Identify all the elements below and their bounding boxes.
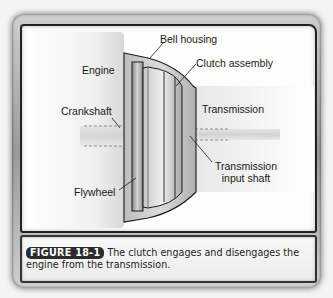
label-transmission-input-shaft: Transmission input shaft xyxy=(212,160,280,184)
caption-panel: FIGURE 18-1The clutch engages and diseng… xyxy=(20,235,317,283)
flywheel xyxy=(132,62,143,211)
label-engine: Engine xyxy=(82,64,115,76)
figure-number-badge: FIGURE 18-1 xyxy=(26,247,104,259)
label-flywheel: Flywheel xyxy=(74,186,115,198)
label-clutch-assembly: Clutch assembly xyxy=(196,57,273,69)
clutch-assembly xyxy=(143,67,182,208)
transmission-input-shaft xyxy=(190,129,280,140)
label-transmission: Transmission xyxy=(202,103,264,115)
label-bell-housing: Bell housing xyxy=(160,33,217,45)
crankshaft xyxy=(80,126,124,146)
figure-caption: FIGURE 18-1The clutch engages and diseng… xyxy=(26,247,308,271)
label-crankshaft: Crankshaft xyxy=(61,105,112,117)
